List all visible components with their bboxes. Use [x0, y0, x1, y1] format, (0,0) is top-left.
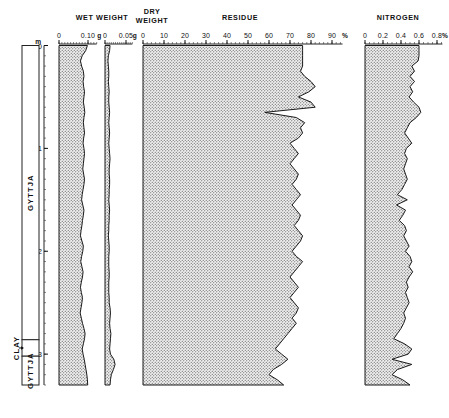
lithology-label-gyttja-2: GYTTJA [26, 352, 35, 389]
tick-label-nitrogen-3: 0.6 [414, 32, 424, 39]
unit-symbol-wet-weight: g [97, 32, 101, 40]
depth-unit-label: m [35, 38, 41, 45]
tick-label-residue-9: 90 [328, 32, 336, 39]
title-dry-weight-line1: DRY [144, 7, 161, 16]
tick-label-residue-6: 60 [265, 32, 273, 39]
tick-label-nitrogen-4: 0.8 [432, 32, 442, 39]
tick-label-dry-weight-1: 0.05 [119, 32, 133, 39]
tick-label-residue-5: 50 [244, 32, 252, 39]
unit-symbol-residue: % [342, 32, 348, 39]
tick-label-residue-3: 30 [202, 32, 210, 39]
tick-label-residue-4: 40 [223, 32, 231, 39]
title-residue: RESIDUE [222, 13, 258, 22]
tick-label-residue-0: 0 [141, 32, 145, 39]
lithology-label-gyttja-0: GYTTJA [26, 174, 35, 211]
tick-label-wet-weight-0: 0 [57, 32, 61, 39]
tick-label-wet-weight-1: 0.10 [81, 32, 95, 39]
figure-canvas: WET WEIGHTDRYWEIGHTRESIDUENITROGEN 00.10… [0, 0, 449, 418]
title-wet-weight: WET WEIGHT [76, 13, 129, 22]
tick-label-dry-weight-0: 0 [103, 32, 107, 39]
tick-label-nitrogen-2: 0.4 [396, 32, 406, 39]
tick-label-residue-2: 20 [181, 32, 189, 39]
unit-symbol-dry-weight: g [133, 32, 137, 40]
tick-label-nitrogen-0: 0 [363, 32, 367, 39]
tick-label-residue-8: 80 [307, 32, 315, 39]
core-stratigraphy-figure: WET WEIGHTDRYWEIGHTRESIDUENITROGEN 00.10… [0, 0, 449, 418]
tick-label-nitrogen-1: 0.2 [378, 32, 388, 39]
unit-symbol-nitrogen: % [442, 32, 448, 39]
title-dry-weight-line2: WEIGHT [136, 16, 168, 25]
tick-label-residue-1: 10 [160, 32, 168, 39]
title-nitrogen: NITROGEN [377, 13, 420, 22]
tick-label-residue-7: 70 [286, 32, 294, 39]
